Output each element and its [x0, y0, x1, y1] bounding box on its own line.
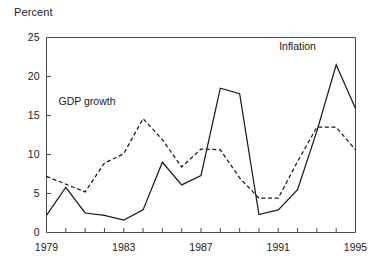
series-annotation-inflation: Inflation	[279, 40, 316, 52]
y-tick-label: 5	[34, 187, 40, 199]
x-tick-group: 19791983198719911995	[35, 228, 368, 253]
chart-figure: Percent 0510152025 19791983198719911995 …	[0, 0, 370, 266]
y-tick-label: 10	[28, 148, 40, 160]
series-annotation-group: InflationGDP growth	[59, 40, 317, 107]
y-tick-label: 25	[28, 31, 40, 43]
series-line-gdp-growth	[47, 119, 356, 199]
series-annotation-gdp-growth: GDP growth	[59, 95, 116, 107]
x-tick-label: 1991	[267, 241, 291, 253]
line-chart-plot: 0510152025 19791983198719911995 Inflatio…	[0, 0, 370, 266]
x-tick-label: 1987	[189, 241, 213, 253]
axis-group	[47, 38, 356, 233]
x-tick-label: 1979	[35, 241, 59, 253]
y-tick-label: 0	[34, 226, 40, 238]
y-tick-label: 15	[28, 109, 40, 121]
series-group	[47, 65, 356, 220]
series-line-inflation	[47, 65, 356, 220]
x-tick-label: 1983	[112, 241, 136, 253]
y-tick-group: 0510152025	[28, 31, 51, 238]
plot-border	[47, 38, 356, 233]
y-tick-label: 20	[28, 70, 40, 82]
x-tick-label: 1995	[344, 241, 368, 253]
